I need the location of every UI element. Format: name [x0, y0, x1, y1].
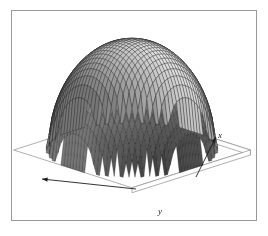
y-axis-label: y	[158, 207, 162, 216]
x-axis-label: x	[218, 131, 222, 140]
figure-root: x y	[0, 0, 268, 236]
surface-plot-canvas	[0, 0, 268, 236]
